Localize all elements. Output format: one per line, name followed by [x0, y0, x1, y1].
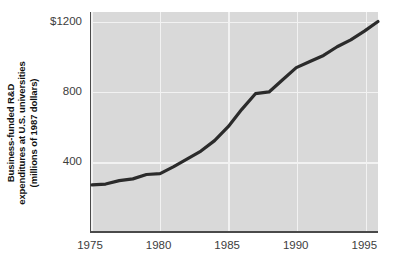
x-axis-tick-label: 1975: [77, 239, 103, 251]
chart-container: Business-funded R&D expenditures at U.S.…: [0, 0, 394, 266]
x-axis-tick-label: 1995: [351, 239, 377, 251]
x-axis-tick-label: 1980: [146, 239, 172, 251]
x-axis-tick-labels: 1975 1980 1985 1990 1995: [0, 0, 394, 266]
x-axis-tick-label: 1990: [283, 239, 309, 251]
x-axis-tick-label: 1985: [214, 239, 240, 251]
